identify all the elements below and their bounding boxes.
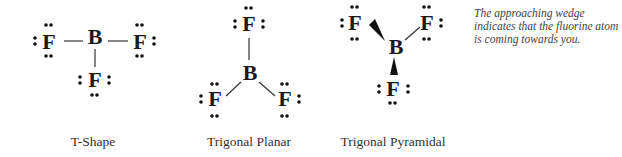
svg-text:F: F [208,86,221,111]
svg-text:F: F [420,10,433,35]
atom-fluorine-right: F [133,23,156,58]
svg-text:F: F [278,86,291,111]
atom-fluorine-bottom-right: F [278,82,301,118]
structure-trigonal-planar: B F F F [199,6,301,149]
svg-text:F: F [386,76,399,101]
svg-text:F: F [348,10,361,35]
atom-fluorine-top: F [233,6,265,36]
atom-fluorine-top-left: F [340,5,362,41]
atom-fluorine-bottom-left: F [199,82,222,118]
bond-b-f-bottom-right [259,82,275,96]
label-trigonal-planar: Trigonal Planar [207,134,291,149]
wedge-bond-bottom [390,57,398,75]
atom-boron: B [243,60,258,85]
structure-trigonal-pyramidal: B F F F [340,5,445,149]
atom-fluorine-left: F [33,23,56,58]
svg-text:F: F [133,29,146,54]
atom-boron: B [88,24,103,49]
label-t-shape: T-Shape [71,134,116,149]
wedge-explanation-note: The approaching wedge indicates that the… [474,7,622,46]
wedge-bond-top-left [369,19,385,41]
atom-fluorine-bottom: F [78,67,111,97]
bond-b-f-bottom-left [226,82,241,96]
atom-fluorine-bottom: F [377,76,410,105]
svg-text:F: F [42,29,55,54]
atom-boron: B [389,34,404,59]
svg-text:F: F [242,11,255,36]
atom-fluorine-top-right: F [420,5,443,41]
svg-text:F: F [88,67,101,92]
structure-t-shape: B F F F [33,23,156,149]
label-trigonal-pyramidal: Trigonal Pyramidal [341,134,446,149]
bond-b-f-top-right [405,27,420,40]
